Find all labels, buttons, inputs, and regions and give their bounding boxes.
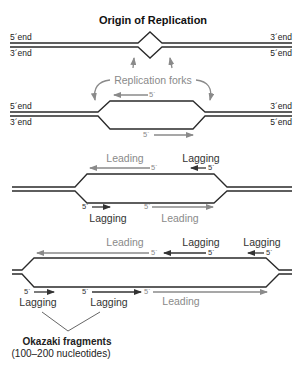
- dna-replication-diagram: Origin of Replication 5´end 3´end 3´end …: [0, 0, 306, 365]
- okazaki-label: Okazaki fragments: [23, 336, 112, 347]
- bottom-lagging-label-1: Lagging: [19, 296, 57, 308]
- okazaki-sublabel: (100–200 nucleotides): [12, 348, 111, 359]
- top-lagging-label-2: Lagging: [243, 236, 281, 248]
- bottom-strand: [10, 116, 292, 129]
- fork-curve-arrow-right: [196, 80, 211, 100]
- right-bottom-end-label: 5´end: [270, 48, 292, 58]
- diagram-title: Origin of Replication: [99, 14, 207, 26]
- okazaki-annotation: Okazaki fragments (100–200 nucleotides): [12, 312, 112, 359]
- left-bottom-end-label: 3´end: [10, 117, 32, 127]
- bottom-leading-5prime: 5´: [144, 202, 151, 211]
- bottom-leading-label: Leading: [162, 295, 200, 307]
- panel-origin: 5´end 3´end 3´end 5´end: [10, 32, 292, 68]
- right-top-end-label: 3´end: [270, 101, 292, 111]
- panel-okazaki: Leading Lagging Lagging 5´ 5´ 5´ 5´ 5´ 5…: [12, 236, 292, 308]
- top-lagging-5prime-1: 5´: [208, 248, 215, 257]
- panel-replication-bubble: Replication forks 5´end 3´end 3´end 5´en…: [10, 74, 292, 139]
- top-strand: [12, 174, 292, 187]
- top-strand: [12, 258, 292, 270]
- right-top-end-label: 3´end: [270, 32, 292, 42]
- bottom-lagging-5prime-1: 5´: [24, 287, 31, 296]
- fork-arrow-left: [133, 58, 134, 68]
- left-top-end-label: 5´end: [10, 101, 32, 111]
- bottom-leading-5prime: 5´: [144, 287, 151, 296]
- top-strand: [10, 101, 292, 112]
- bottom-lagging-5prime: 5´: [82, 202, 89, 211]
- top-leading-label: Leading: [106, 152, 144, 164]
- top-strand: [10, 32, 292, 43]
- bottom-lagging-label: Lagging: [89, 212, 127, 224]
- fork-curve-arrow-left: [95, 80, 110, 100]
- top-5prime-label: 5´: [149, 90, 156, 99]
- right-bottom-end-label: 5´end: [270, 117, 292, 127]
- top-leading-5prime: 5´: [151, 163, 158, 172]
- bottom-strand: [12, 191, 292, 203]
- bottom-strand: [10, 47, 292, 58]
- left-top-end-label: 5´end: [10, 32, 32, 42]
- panel-leading-lagging: Leading Lagging 5´ 5´ 5´ 5´ Lagging Lead…: [12, 152, 292, 224]
- top-leading-5prime: 5´: [151, 248, 158, 257]
- okazaki-bracket-lines: [42, 312, 100, 331]
- fork-arrow-right: [170, 58, 172, 68]
- top-leading-label: Leading: [106, 236, 144, 248]
- top-lagging-label-1: Lagging: [182, 236, 220, 248]
- bottom-5prime-label: 5´: [143, 130, 150, 139]
- bottom-strand: [12, 274, 292, 287]
- replication-forks-label: Replication forks: [114, 74, 192, 86]
- top-lagging-5prime: 5´: [208, 163, 215, 172]
- bottom-leading-label: Leading: [161, 212, 199, 224]
- bottom-lagging-label-2: Lagging: [90, 296, 128, 308]
- top-lagging-5prime-2: 5´: [266, 248, 273, 257]
- left-bottom-end-label: 3´end: [10, 48, 32, 58]
- bottom-lagging-5prime-2: 5´: [82, 287, 89, 296]
